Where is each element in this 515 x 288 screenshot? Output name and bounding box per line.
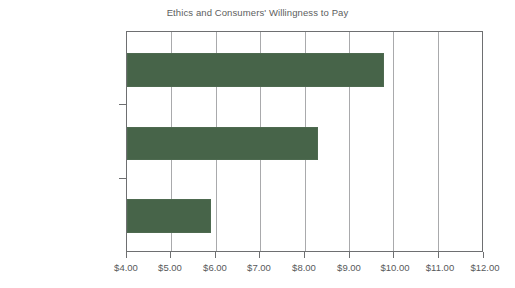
x-tick-4 — [126, 252, 127, 258]
x-tick-5 — [170, 252, 171, 258]
x-axis-label-7: $7.00 — [247, 262, 271, 273]
x-axis-label-11: $11.00 — [426, 262, 454, 273]
x-axis-label-10: $10.00 — [380, 262, 409, 273]
plot-area — [126, 31, 483, 252]
chart-title: Ethics and Consumers' Willingness to Pay — [0, 7, 515, 18]
x-axis-label-6: $6.00 — [203, 262, 227, 273]
x-axis-label-9: $9.00 — [337, 262, 361, 273]
x-tick-6 — [215, 252, 216, 258]
x-tick-8 — [304, 252, 305, 258]
x-tick-7 — [259, 252, 260, 258]
x-axis-label-12: $12.00 — [470, 262, 499, 273]
chart-figure: Ethics and Consumers' Willingness to Pay… — [0, 0, 515, 288]
x-axis-label-4: $4.00 — [114, 262, 138, 273]
bar-unethically-produced — [127, 199, 211, 233]
bar-typical — [127, 127, 318, 160]
y-tick-1 — [119, 104, 126, 105]
x-tick-12 — [483, 252, 484, 258]
x-tick-9 — [349, 252, 350, 258]
x-tick-11 — [438, 252, 439, 258]
x-tick-10 — [393, 252, 394, 258]
y-tick-2 — [119, 178, 126, 179]
gridline-11 — [438, 32, 439, 251]
x-axis-label-5: $5.00 — [158, 262, 182, 273]
gridline-10 — [393, 32, 394, 251]
bar-ethically-produced — [127, 53, 384, 87]
x-axis-label-8: $8.00 — [292, 262, 316, 273]
